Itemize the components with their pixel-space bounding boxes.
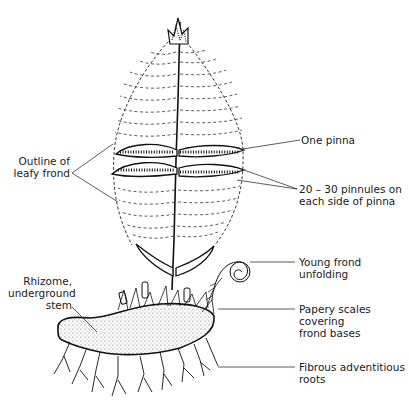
- label-young-frond: Young frond unfolding: [299, 256, 361, 280]
- label-pinnules: 20 – 30 pinnules on each side of pinna: [299, 183, 402, 207]
- label-papery-scales: Papery scales covering frond bases: [299, 303, 371, 339]
- pinnae: [112, 144, 244, 276]
- rhizome: [58, 304, 214, 355]
- frond-apex: [168, 18, 188, 44]
- label-rhizome: Rhizome, underground stem: [8, 275, 72, 311]
- label-fibrous-roots: Fibrous adventitious roots: [299, 361, 405, 385]
- label-one-pinna: One pinna: [301, 134, 355, 146]
- label-outline-of-leafy-frond: Outline of leafy frond: [2, 155, 70, 179]
